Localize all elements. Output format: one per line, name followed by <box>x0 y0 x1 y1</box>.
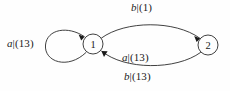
edge-label-2-to-1-middle: a|(13) <box>122 52 149 63</box>
edge-weight-top: (1) <box>139 1 152 13</box>
edge-label-2-to-1-bottom: b|(13) <box>124 71 151 82</box>
edge-label-self-loop-state-1: a|(13) <box>7 38 34 49</box>
automaton-diagram: 1 2 a|(13) b|(1) a|(13) b|(13) <box>0 0 230 91</box>
automaton-graph-canvas: 1 2 <box>0 0 230 91</box>
edge-label-1-to-2-top: b|(1) <box>131 2 152 13</box>
edge-weight-bottom: (13) <box>132 70 151 82</box>
edge-weight-self-loop: (13) <box>15 37 34 49</box>
state-node-1-label: 1 <box>90 39 95 50</box>
edge-path-1-to-2-top <box>102 25 200 38</box>
edge-path-2-to-1-bottom <box>102 51 201 65</box>
state-node-2-label: 2 <box>205 40 210 51</box>
edge-arrowhead-into-state-1 <box>101 51 107 57</box>
edge-weight-middle: (13) <box>130 51 149 63</box>
